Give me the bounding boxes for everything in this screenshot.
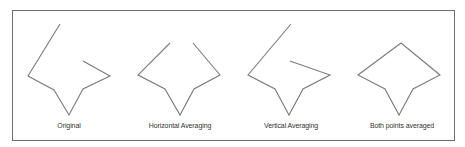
- shape-horizontal-averaging: [138, 43, 220, 115]
- caption-both-averaged: Both points averaged: [370, 122, 434, 129]
- shape-vertical-averaging: [248, 24, 330, 115]
- shape-original: [28, 24, 110, 115]
- caption-vertical-averaging: Vertical Averaging: [264, 122, 318, 129]
- caption-horizontal-averaging: Horizontal Averaging: [149, 122, 211, 129]
- shape-both-averaged: [358, 43, 440, 115]
- caption-original: Original: [57, 122, 80, 129]
